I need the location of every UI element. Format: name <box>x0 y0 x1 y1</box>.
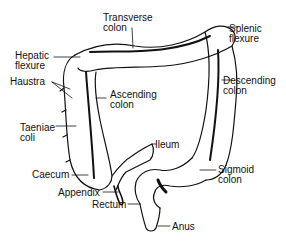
transverse-colon-shape <box>75 26 235 71</box>
label-hepatic-flexure: Hepaticflexure <box>15 51 49 71</box>
ileum-shape <box>112 144 153 190</box>
label-taeniae-coli: Taeniaecoli <box>20 123 55 143</box>
label-line: coli <box>20 133 55 143</box>
label-line: colon <box>223 86 276 96</box>
ascending-colon-shape <box>63 55 112 190</box>
label-descending-colon: Descendingcolon <box>223 76 276 96</box>
label-ascending-colon: Ascendingcolon <box>110 90 157 110</box>
label-line: colon <box>103 23 153 33</box>
label-transverse-colon: Transversecolon <box>103 13 153 33</box>
label-haustra: Haustra <box>10 77 45 87</box>
label-line: Ileum <box>155 140 179 150</box>
label-rectum: Rectum <box>92 200 126 210</box>
label-splenic-flexure: Splenicflexure <box>229 24 262 44</box>
label-line: flexure <box>229 34 262 44</box>
label-line: Caecum <box>32 170 69 180</box>
label-ileum: Ileum <box>155 140 179 150</box>
label-anus: Anus <box>172 222 195 232</box>
label-line: colon <box>218 175 254 185</box>
label-line: flexure <box>15 61 49 71</box>
label-line: Rectum <box>92 200 126 210</box>
rectum-shape <box>140 204 160 231</box>
label-caecum: Caecum <box>32 170 69 180</box>
label-line: Haustra <box>10 77 45 87</box>
label-line: Anus <box>172 222 195 232</box>
label-appendix: Appendix <box>58 188 100 198</box>
label-sigmoid-colon: Sigmoidcolon <box>218 165 254 185</box>
label-line: colon <box>110 100 157 110</box>
sigmoid-colon-shape <box>135 158 206 208</box>
label-line: Appendix <box>58 188 100 198</box>
